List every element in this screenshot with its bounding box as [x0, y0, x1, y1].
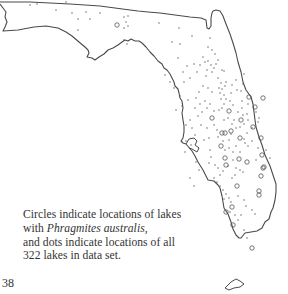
lake-dot	[202, 85, 203, 86]
lake-dot	[206, 107, 207, 108]
phragmites-lake-circle	[227, 109, 231, 113]
lake-dot	[191, 35, 192, 36]
lake-dot	[223, 198, 224, 199]
lake-dot	[255, 111, 256, 112]
lake-dot	[184, 151, 185, 152]
lake-dot	[205, 75, 206, 76]
lake-dot	[224, 149, 225, 150]
lake-dot	[194, 134, 195, 135]
lake-dot	[223, 119, 224, 120]
lake-dot	[208, 162, 209, 163]
lake-dot	[217, 136, 218, 137]
phragmites-lake-circle	[229, 129, 233, 133]
lake-dot	[228, 147, 229, 148]
lake-dot	[230, 92, 231, 93]
lake-dot	[126, 43, 127, 44]
caption-line-4: 322 lakes in data set.	[23, 249, 203, 263]
lake-dot	[193, 63, 194, 64]
lake-dot	[251, 140, 252, 141]
lake-dot	[214, 164, 215, 165]
lake-dot	[211, 71, 212, 72]
lake-dot	[215, 63, 216, 64]
lake-dot	[237, 111, 238, 112]
phragmites-lake-circle	[261, 166, 265, 170]
lake-dot	[235, 167, 236, 168]
lake-dot	[158, 22, 159, 23]
lake-dot	[237, 219, 238, 220]
phragmites-lake-circle	[115, 23, 119, 27]
lake-dot	[193, 185, 194, 186]
lake-dot	[231, 84, 232, 85]
lake-dot	[196, 71, 197, 72]
lake-dot	[214, 53, 215, 54]
lake-dot	[213, 124, 214, 125]
lake-dot	[232, 151, 233, 152]
lake-dot	[227, 117, 228, 118]
lake-dot	[211, 49, 212, 50]
lake-dot	[183, 81, 184, 82]
lake-dot	[173, 87, 174, 88]
lake-dot	[228, 139, 229, 140]
lake-dot	[235, 79, 236, 80]
lake-dot	[200, 124, 201, 125]
lake-dot	[216, 181, 217, 182]
lake-dot	[233, 119, 234, 120]
lake-dot	[195, 161, 196, 162]
lake-dot	[127, 15, 128, 16]
lake-dot	[186, 65, 187, 66]
lake-dot	[247, 119, 248, 120]
lake-dot	[191, 127, 192, 128]
phragmites-lake-circle	[223, 131, 227, 135]
lake-dot	[247, 103, 248, 104]
lake-dot	[71, 12, 72, 13]
lake-dot	[187, 99, 188, 100]
lake-dot	[245, 205, 246, 206]
lake-dot	[242, 114, 243, 115]
lake-dot	[216, 129, 217, 130]
lake-dot	[182, 71, 183, 72]
phragmites-lake-circle	[251, 125, 255, 129]
phragmites-lake-circle	[250, 246, 254, 250]
lake-dot	[209, 103, 210, 104]
lake-dot	[242, 83, 243, 84]
phragmites-lake-circle	[235, 184, 239, 188]
lake-dot	[29, 4, 30, 5]
lake-dot	[189, 119, 190, 120]
lake-dot	[213, 177, 214, 178]
lake-dot	[77, 29, 78, 30]
phragmites-lake-circle	[223, 156, 227, 160]
lake-dot	[223, 94, 224, 95]
lake-dot	[219, 185, 220, 186]
lake-dot	[224, 85, 225, 86]
lake-dots-layer	[29, 1, 270, 238]
lake-dot	[210, 156, 211, 157]
tampa-bay-outline	[186, 138, 199, 152]
lake-dot	[177, 57, 178, 58]
lake-dot	[269, 157, 270, 158]
lake-dot	[218, 87, 219, 88]
lake-dot	[241, 107, 242, 108]
florida-outline	[0, 2, 276, 238]
lake-dot	[198, 169, 199, 170]
caption-line-2-prefix: with	[23, 222, 47, 235]
lake-dot	[257, 147, 258, 148]
lake-dot	[236, 89, 237, 90]
caption-line-3: and dots indicate locations of all	[23, 236, 203, 250]
lake-dot	[229, 211, 230, 212]
lake-dot	[244, 142, 245, 143]
lake-dot	[217, 167, 218, 168]
page-number: 38	[2, 276, 14, 291]
lake-dot	[207, 60, 208, 61]
lake-dot	[190, 144, 191, 145]
lake-dot	[228, 197, 229, 198]
lake-dot	[204, 100, 205, 101]
lake-dot	[230, 201, 231, 202]
lake-dot	[209, 37, 210, 38]
lake-dot	[123, 27, 124, 28]
lake-dot	[213, 110, 214, 111]
lake-dot	[258, 117, 259, 118]
lake-dot	[202, 56, 203, 57]
lake-dot	[257, 121, 258, 122]
lake-dot	[239, 169, 240, 170]
lake-dot	[243, 123, 244, 124]
